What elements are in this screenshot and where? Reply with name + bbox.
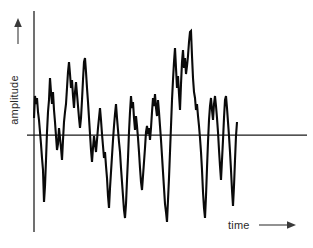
x-axis-label: time bbox=[228, 219, 250, 231]
y-axis-label: amplitude bbox=[8, 75, 20, 125]
x-axis-label-group: time bbox=[228, 219, 296, 231]
waveform-figure: amplitude time bbox=[0, 0, 313, 248]
signal-waveform bbox=[34, 31, 237, 222]
y-axis-label-group: amplitude bbox=[8, 18, 22, 125]
up-arrow-icon bbox=[14, 18, 22, 27]
right-arrow-icon bbox=[287, 221, 296, 229]
signal-plot: amplitude time bbox=[0, 0, 313, 248]
